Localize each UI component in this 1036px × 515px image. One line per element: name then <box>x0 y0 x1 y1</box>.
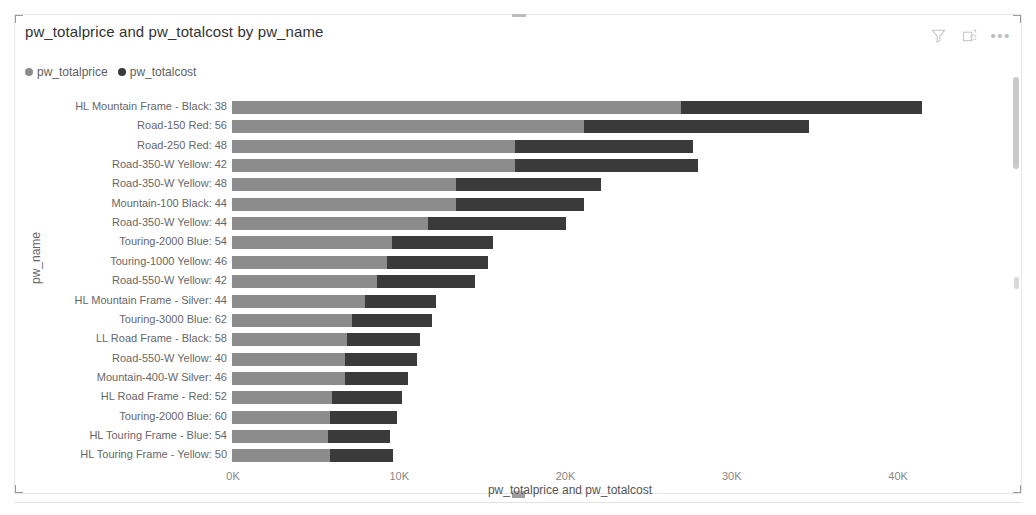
category-label[interactable]: Road-150 Red: 56 <box>27 119 227 131</box>
bar-segment-pw-totalprice[interactable] <box>232 391 332 404</box>
category-label[interactable]: Road-550-W Yellow: 42 <box>27 274 227 286</box>
bar-segment-pw-totalcost[interactable] <box>365 295 436 308</box>
bar-segment-pw-totalprice[interactable] <box>232 217 428 230</box>
x-axis-tick-label: 0K <box>226 470 239 482</box>
plot-area[interactable]: pw_name HL Mountain Frame - Black: 38Roa… <box>15 15 1021 493</box>
bar-row[interactable] <box>232 449 393 462</box>
bar-row[interactable] <box>232 120 809 133</box>
bar-segment-pw-totalcost[interactable] <box>681 101 922 114</box>
bar-row[interactable] <box>232 314 432 327</box>
bar-segment-pw-totalcost[interactable] <box>330 449 393 462</box>
bar-row[interactable] <box>232 198 584 211</box>
bar-segment-pw-totalprice[interactable] <box>232 236 392 249</box>
bar-row[interactable] <box>232 101 922 114</box>
bar-segment-pw-totalprice[interactable] <box>232 372 345 385</box>
bar-segment-pw-totalcost[interactable] <box>515 140 693 153</box>
bar-segment-pw-totalcost[interactable] <box>352 314 432 327</box>
screenshot-root: pw_totalprice and pw_totalcost by pw_nam… <box>0 0 1036 515</box>
bar-row[interactable] <box>232 256 488 269</box>
bar-segment-pw-totalcost[interactable] <box>456 178 601 191</box>
bar-segment-pw-totalprice[interactable] <box>232 140 515 153</box>
category-label[interactable]: Road-250 Red: 48 <box>27 139 227 151</box>
bar-segment-pw-totalprice[interactable] <box>232 120 584 133</box>
bar-segment-pw-totalcost[interactable] <box>377 275 475 288</box>
category-label[interactable]: HL Mountain Frame - Black: 38 <box>27 100 227 112</box>
bar-segment-pw-totalcost[interactable] <box>387 256 488 269</box>
bar-row[interactable] <box>232 159 698 172</box>
bar-segment-pw-totalcost[interactable] <box>584 120 808 133</box>
bar-segment-pw-totalcost[interactable] <box>392 236 493 249</box>
x-axis-tick-label: 10K <box>389 470 409 482</box>
bar-row[interactable] <box>232 430 390 443</box>
bar-segment-pw-totalcost[interactable] <box>345 372 408 385</box>
bar-segment-pw-totalcost[interactable] <box>347 333 420 346</box>
bar-segment-pw-totalcost[interactable] <box>345 353 416 366</box>
vertical-scrollbar-thumb[interactable] <box>1013 77 1019 169</box>
category-label[interactable]: Touring-1000 Yellow: 46 <box>27 255 227 267</box>
bars-container[interactable] <box>232 15 922 493</box>
category-label[interactable]: LL Road Frame - Black: 58 <box>27 332 227 344</box>
bar-row[interactable] <box>232 411 397 424</box>
vertical-scrollbar-marker[interactable] <box>1014 277 1019 289</box>
bar-row[interactable] <box>232 178 601 191</box>
bar-row[interactable] <box>232 333 420 346</box>
category-label[interactable]: Road-350-W Yellow: 44 <box>27 216 227 228</box>
bar-segment-pw-totalprice[interactable] <box>232 159 515 172</box>
bar-segment-pw-totalprice[interactable] <box>232 430 328 443</box>
bar-segment-pw-totalcost[interactable] <box>456 198 584 211</box>
x-axis-tick-label: 30K <box>722 470 742 482</box>
x-axis-tick-label: 40K <box>888 470 908 482</box>
page-divider <box>14 502 1022 503</box>
x-axis-tick-label: 20K <box>556 470 576 482</box>
bar-row[interactable] <box>232 217 566 230</box>
category-label[interactable]: Road-350-W Yellow: 42 <box>27 158 227 170</box>
bar-segment-pw-totalprice[interactable] <box>232 314 352 327</box>
category-label[interactable]: Touring-2000 Blue: 60 <box>27 410 227 422</box>
y-axis-category-labels: HL Mountain Frame - Black: 38Road-150 Re… <box>27 15 227 493</box>
category-label[interactable]: HL Touring Frame - Blue: 54 <box>27 429 227 441</box>
bar-segment-pw-totalcost[interactable] <box>515 159 698 172</box>
category-label[interactable]: Road-550-W Yellow: 40 <box>27 352 227 364</box>
bar-segment-pw-totalprice[interactable] <box>232 295 365 308</box>
bar-row[interactable] <box>232 391 402 404</box>
bar-segment-pw-totalcost[interactable] <box>428 217 566 230</box>
category-label[interactable]: Mountain-400-W Silver: 46 <box>27 371 227 383</box>
x-axis-title: pw_totalprice and pw_totalcost <box>220 483 920 497</box>
category-label[interactable]: HL Mountain Frame - Silver: 44 <box>27 294 227 306</box>
bar-segment-pw-totalprice[interactable] <box>232 411 330 424</box>
bar-segment-pw-totalprice[interactable] <box>232 256 387 269</box>
bottom-resize-nub[interactable] <box>512 494 525 498</box>
bar-segment-pw-totalcost[interactable] <box>330 411 397 424</box>
bar-row[interactable] <box>232 353 417 366</box>
bar-row[interactable] <box>232 275 475 288</box>
bar-segment-pw-totalcost[interactable] <box>328 430 390 443</box>
bar-row[interactable] <box>232 140 693 153</box>
bar-segment-pw-totalprice[interactable] <box>232 198 456 211</box>
bar-segment-pw-totalprice[interactable] <box>232 353 345 366</box>
bar-row[interactable] <box>232 372 408 385</box>
category-label[interactable]: Touring-2000 Blue: 54 <box>27 235 227 247</box>
bar-segment-pw-totalprice[interactable] <box>232 178 456 191</box>
bar-row[interactable] <box>232 236 493 249</box>
category-label[interactable]: HL Road Frame - Red: 52 <box>27 390 227 402</box>
power-bi-visual-card[interactable]: pw_totalprice and pw_totalcost by pw_nam… <box>14 14 1022 494</box>
bar-segment-pw-totalprice[interactable] <box>232 275 377 288</box>
bar-segment-pw-totalprice[interactable] <box>232 449 330 462</box>
category-label[interactable]: Touring-3000 Blue: 62 <box>27 313 227 325</box>
category-label[interactable]: Road-350-W Yellow: 48 <box>27 177 227 189</box>
bar-row[interactable] <box>232 295 436 308</box>
bar-segment-pw-totalprice[interactable] <box>232 101 681 114</box>
category-label[interactable]: HL Touring Frame - Yellow: 50 <box>27 448 227 460</box>
bar-segment-pw-totalprice[interactable] <box>232 333 347 346</box>
category-label[interactable]: Mountain-100 Black: 44 <box>27 197 227 209</box>
bar-segment-pw-totalcost[interactable] <box>332 391 402 404</box>
